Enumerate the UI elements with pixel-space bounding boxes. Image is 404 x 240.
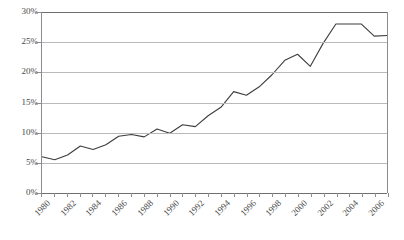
x-axis-tick-label: 1990 [155, 198, 180, 223]
y-axis-tick-label: 0% [2, 188, 38, 197]
x-axis-tick-label: 2000 [284, 198, 309, 223]
x-axis-tick-label: 2004 [335, 198, 360, 223]
x-axis-tick [388, 193, 389, 197]
x-axis-tick [247, 193, 248, 197]
data-series-path [42, 24, 387, 160]
x-axis-tick [324, 193, 325, 197]
plot-area [41, 12, 388, 193]
x-axis-tick-label: 1982 [52, 198, 77, 223]
gridline [42, 163, 387, 164]
x-axis-tick [105, 193, 106, 197]
x-axis-tick [285, 193, 286, 197]
x-axis-tick [208, 193, 209, 197]
x-axis-labels: 1980198219841986198819901992199419961998… [41, 198, 388, 240]
x-axis-tick-label: 1998 [258, 198, 283, 223]
x-axis-tick [311, 193, 312, 197]
x-axis-tick [375, 193, 376, 197]
x-axis-tick [182, 193, 183, 197]
y-axis-tick-label: 25% [2, 37, 38, 46]
line-chart: 0%5%10%15%20%25%30% 19801982198419861988… [0, 0, 404, 240]
x-axis-tick [131, 193, 132, 197]
y-axis-tick-label: 20% [2, 67, 38, 76]
x-axis-tick [349, 193, 350, 197]
x-axis-tick [157, 193, 158, 197]
x-axis-tick [54, 193, 55, 197]
x-axis-tick-label: 1988 [129, 198, 154, 223]
x-axis-tick-label: 2002 [309, 198, 334, 223]
y-axis-tick-label: 5% [2, 158, 38, 167]
x-axis-tick-label: 1992 [181, 198, 206, 223]
x-axis-tick [259, 193, 260, 197]
x-axis-tick [41, 193, 42, 197]
y-axis-tick-label: 15% [2, 98, 38, 107]
gridline [42, 42, 387, 43]
x-axis-tick [80, 193, 81, 197]
x-axis-tick [221, 193, 222, 197]
y-axis-tick-label: 10% [2, 128, 38, 137]
x-axis-tick [362, 193, 363, 197]
x-axis-tick [170, 193, 171, 197]
x-axis-tick [234, 193, 235, 197]
x-axis-tick [67, 193, 68, 197]
x-axis-tick [144, 193, 145, 197]
x-axis-tick [272, 193, 273, 197]
x-axis-tick-label: 1984 [78, 198, 103, 223]
x-axis-tick-label: 1986 [104, 198, 129, 223]
x-axis-tick [92, 193, 93, 197]
x-axis-tick-label: 2006 [361, 198, 386, 223]
gridline [42, 103, 387, 104]
x-axis-tick [118, 193, 119, 197]
y-axis: 0%5%10%15%20%25%30% [0, 0, 38, 240]
x-axis-tick [195, 193, 196, 197]
x-axis-tick [298, 193, 299, 197]
gridline [42, 72, 387, 73]
gridline [42, 133, 387, 134]
x-axis-tick-label: 1996 [232, 198, 257, 223]
y-axis-tick-label: 30% [2, 7, 38, 16]
gridline [42, 12, 387, 13]
x-axis-tick [337, 193, 338, 197]
x-axis-tick-label: 1994 [207, 198, 232, 223]
